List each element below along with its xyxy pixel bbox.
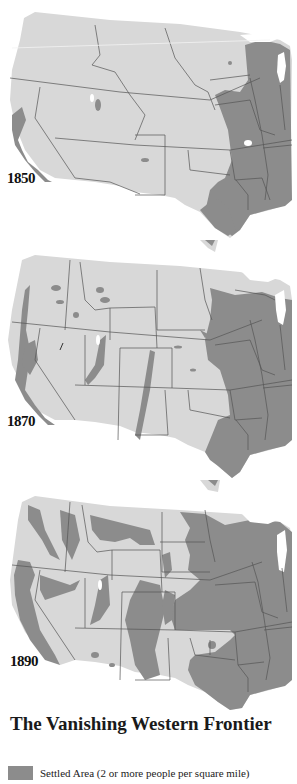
map-1890: 1890 bbox=[0, 480, 297, 710]
map-title: The Vanishing Western Frontier bbox=[10, 713, 272, 735]
us-map-1870 bbox=[0, 240, 297, 480]
legend-swatch-settled bbox=[8, 766, 33, 780]
year-label-1870: 1870 bbox=[7, 413, 35, 430]
us-map-1890 bbox=[0, 480, 297, 710]
map-1870: 1870 bbox=[0, 240, 297, 480]
legend-label-settled: Settled Area (2 or more people per squar… bbox=[40, 767, 250, 779]
year-label-1890: 1890 bbox=[10, 653, 38, 670]
legend: Settled Area (2 or more people per squar… bbox=[8, 766, 250, 780]
map-1850: 1850 bbox=[0, 0, 297, 240]
us-map-1850 bbox=[0, 0, 297, 240]
year-label-1850: 1850 bbox=[7, 170, 35, 187]
